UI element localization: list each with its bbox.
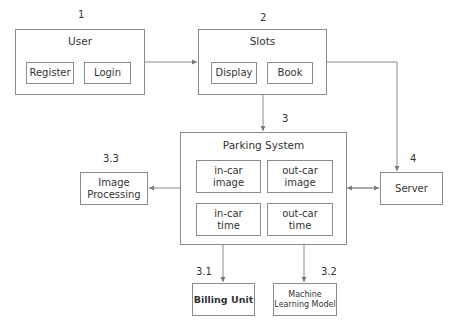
out-car-image-line2: image xyxy=(284,177,315,189)
login-box: Login xyxy=(84,62,131,84)
user-box: User Register Login xyxy=(15,29,145,95)
in-car-image-line1: in-car xyxy=(214,165,242,177)
image-processing-line2: Processing xyxy=(87,189,140,201)
display-box: Display xyxy=(211,62,257,84)
out-car-time-box: out-car time xyxy=(267,203,333,236)
book-box: Book xyxy=(267,62,313,84)
billing-unit-box: Billing Unit xyxy=(192,283,255,316)
slots-box: Slots Display Book xyxy=(198,29,327,95)
ml-number: 3.2 xyxy=(321,266,337,277)
in-car-time-line1: in-car xyxy=(214,208,242,220)
parking-system-box: Parking System in-car image out-car imag… xyxy=(180,132,347,245)
out-car-time-line1: out-car xyxy=(282,208,318,220)
parking-number: 3 xyxy=(282,113,288,124)
user-title: User xyxy=(16,35,144,47)
image-processing-line1: Image xyxy=(98,177,129,189)
ml-model-line2: Learning Model xyxy=(274,300,335,310)
image-processing-number: 3.3 xyxy=(103,153,119,164)
image-processing-box: Image Processing xyxy=(80,172,148,205)
user-number: 1 xyxy=(78,9,84,20)
ml-model-box: Machine Learning Model xyxy=(273,283,337,316)
in-car-image-box: in-car image xyxy=(196,160,261,193)
out-car-time-line2: time xyxy=(289,220,312,232)
ml-model-line1: Machine xyxy=(288,290,322,300)
billing-number: 3.1 xyxy=(196,266,212,277)
out-car-image-line1: out-car xyxy=(282,165,318,177)
register-box: Register xyxy=(26,62,74,84)
parking-title: Parking System xyxy=(181,139,346,151)
slots-number: 2 xyxy=(260,12,266,23)
server-number: 4 xyxy=(410,153,416,164)
server-box: Server xyxy=(380,172,443,205)
in-car-image-line2: image xyxy=(213,177,244,189)
slots-title: Slots xyxy=(199,35,326,47)
out-car-image-box: out-car image xyxy=(267,160,333,193)
in-car-time-box: in-car time xyxy=(196,203,261,236)
in-car-time-line2: time xyxy=(217,220,240,232)
